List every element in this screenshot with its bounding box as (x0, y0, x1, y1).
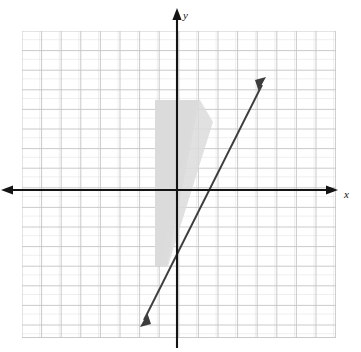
coordinate-plane-graph: y x (0, 0, 361, 352)
x-axis-label: x (343, 188, 349, 200)
y-axis-label: y (182, 9, 188, 21)
graph-figure: 3. (0, 0, 361, 352)
